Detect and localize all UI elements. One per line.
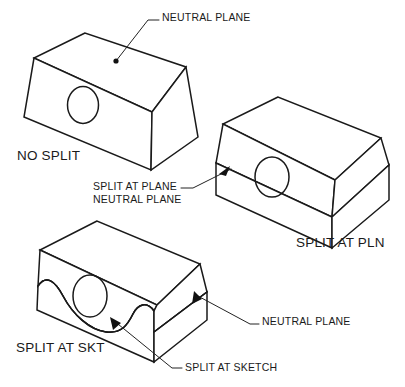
label-neutral-plane-top: NEUTRAL PLANE: [162, 11, 251, 23]
label-split-at-skt: SPLIT AT SKT: [16, 340, 105, 355]
label-neutral-plane-second-line: NEUTRAL PLANE: [93, 193, 182, 205]
label-split-at-sketch: SPLIT AT SKETCH: [185, 361, 277, 373]
label-no-split: NO SPLIT: [17, 148, 80, 163]
diagram-canvas: NEUTRAL PLANE NO SPLIT SPLIT AT PLANE N: [0, 0, 405, 387]
label-split-at-plane: SPLIT AT PLANE: [93, 180, 177, 192]
neutral-plane-dot-marker: [113, 58, 118, 63]
technical-diagram-figure: NEUTRAL PLANE NO SPLIT SPLIT AT PLANE N: [0, 0, 405, 387]
shape-split-at-plane: [216, 97, 389, 248]
label-split-at-pln: SPLIT AT PLN: [296, 235, 385, 250]
label-neutral-plane-right: NEUTRAL PLANE: [262, 315, 351, 327]
